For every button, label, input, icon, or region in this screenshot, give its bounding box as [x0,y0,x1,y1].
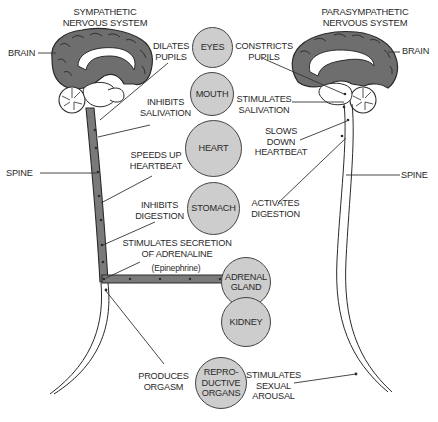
sympathetic-effect-adrenal-subtext: (Epinephrine) [146,263,206,274]
organ-stomach: STOMACH [187,182,240,235]
organ-eyes: EYES [192,27,233,68]
sympathetic-title: SYMPATHETIC NERVOUS SYSTEM [50,6,160,28]
organ-kidney: KIDNEY [221,297,271,347]
organ-heart: HEART [185,120,242,177]
sympathetic-spine-label: SPINE [6,168,33,179]
parasympathetic-brain-icon [292,32,397,113]
autonomic-nervous-system-diagram: SYMPATHETIC NERVOUS SYSTEM PARASYMPATHET… [0,0,438,422]
sympathetic-effect-heart: SPEEDS UP HEARTBEAT [126,150,186,171]
sympathetic-effect-mouth: INHIBITS SALIVATION [138,97,193,118]
parasympathetic-effect-reproductive: STIMULATES SEXUAL AROUSAL [246,370,301,402]
sympathetic-effect-stomach: INHIBITS DIGESTION [132,200,187,221]
sympathetic-brain-label: BRAIN [8,48,35,59]
parasympathetic-spine-icon [337,93,392,392]
organ-reproductive: REPRO- DUCTIVE ORGANS [195,357,247,409]
organ-mouth: MOUTH [190,72,234,116]
parasympathetic-brain-label: BRAIN [402,46,429,57]
parasympathetic-effect-heart: SLOWS DOWN HEARTBEAT [254,126,308,158]
parasympathetic-spine-label: SPINE [401,170,428,181]
sympathetic-effect-adrenal: STIMULATES SECRETION OF ADRENALINE [122,238,232,259]
parasympathetic-effect-mouth: STIMULATES SALIVATION [234,94,294,115]
parasympathetic-effect-stomach: ACTIVATES DIGESTION [248,198,303,219]
parasympathetic-effect-eyes: CONSTRICTS PUPILS [234,41,294,62]
sympathetic-effect-eyes: DILATES PUPILS [146,41,196,62]
sympathetic-effect-reproductive: PRODUCES ORGASM [136,371,191,392]
parasympathetic-title: PARASYMPATHETIC NERVOUS SYSTEM [300,6,430,28]
